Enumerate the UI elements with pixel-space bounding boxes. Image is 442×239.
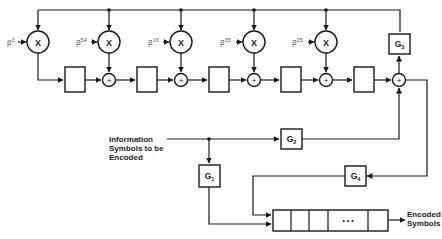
register-cell-4 xyxy=(281,67,301,92)
adder-to-g4-wire xyxy=(367,80,427,176)
junction-dot xyxy=(252,8,256,12)
ellipsis: • • • xyxy=(342,217,354,224)
output-register-frame xyxy=(273,210,388,231)
multiplier-2: β54 X xyxy=(76,31,120,72)
plus-symbol: + xyxy=(324,76,329,85)
plus-symbol: + xyxy=(397,76,402,85)
register-cell-1 xyxy=(65,67,85,92)
gate-g3: G3 xyxy=(389,34,410,74)
input-label-line-3: Encoded xyxy=(109,153,143,162)
multiply-symbol: X xyxy=(35,38,41,48)
coefficient-label: β35 xyxy=(220,37,231,47)
plus-symbol: + xyxy=(107,76,112,85)
multiplier-4: β35 X xyxy=(220,31,265,72)
gate-g2: G2 xyxy=(281,88,399,149)
input-section: Information Symbols to be Encoded xyxy=(109,135,279,163)
coefficient-label: β3 xyxy=(7,37,15,47)
multiplier-1: β3 X xyxy=(7,31,63,80)
reed-solomon-encoder-diagram: β3 X β54 X β16 X β35 X β25 X xyxy=(0,0,442,239)
shift-register-chain: + + + + + xyxy=(65,67,406,92)
input-label-line-1: Information xyxy=(109,135,153,144)
feedback-bus xyxy=(38,8,400,32)
input-label-line-2: Symbols to be xyxy=(109,144,164,153)
output-label-line-2: Symbols xyxy=(407,219,441,228)
multiply-symbol: X xyxy=(251,38,257,48)
coefficient-label: β25 xyxy=(292,37,303,47)
plus-symbol: + xyxy=(179,76,184,85)
junction-dot xyxy=(107,8,111,12)
junction-dot xyxy=(179,8,183,12)
register-cell-2 xyxy=(137,67,157,92)
multiplier-5: β25 X xyxy=(292,31,337,72)
plus-symbol: + xyxy=(252,76,257,85)
register-cell-3 xyxy=(209,67,229,92)
junction-dot xyxy=(324,8,328,12)
multiply-symbol: X xyxy=(323,38,329,48)
output-register: • • • Encoded Symbols xyxy=(273,210,441,231)
multiply-symbol: X xyxy=(178,38,184,48)
output-label-line-1: Encoded xyxy=(407,210,441,219)
multiplier-3: β16 X xyxy=(148,31,192,72)
coefficient-label: β54 xyxy=(76,37,87,47)
multiply-symbol: X xyxy=(106,38,112,48)
gate-g4: G4 xyxy=(253,166,366,215)
coefficient-label: β16 xyxy=(148,37,159,47)
register-cell-5 xyxy=(354,67,374,92)
